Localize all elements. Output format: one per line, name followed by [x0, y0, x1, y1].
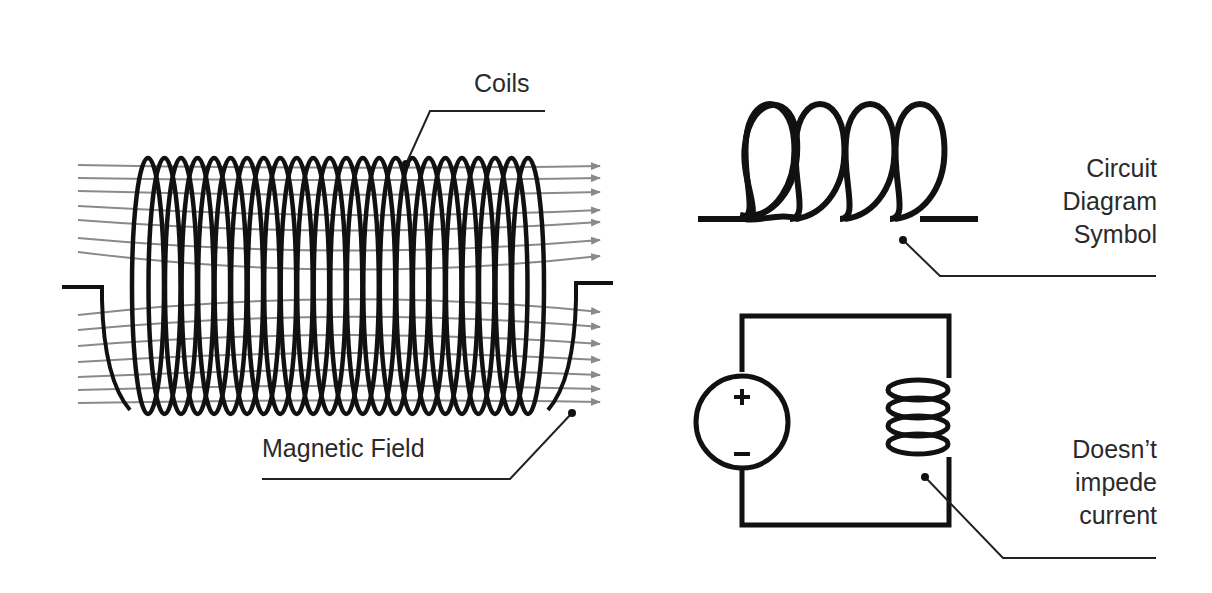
impede-line-3: current [997, 499, 1157, 532]
coils-label: Coils [474, 67, 530, 100]
circuit-symbol-line-1: Circuit [997, 152, 1157, 185]
circuit-inductor [888, 380, 948, 454]
inductor-symbol-loops [740, 104, 978, 219]
circuit-symbol-label: Circuit Diagram Symbol [997, 152, 1157, 251]
circuit-symbol-line-2: Diagram [997, 185, 1157, 218]
circuit-symbol-line-3: Symbol [997, 218, 1157, 251]
circuit-wires [742, 316, 949, 525]
solenoid-coils [132, 158, 544, 414]
magnetic-field-label: Magnetic Field [262, 432, 425, 465]
voltage-source [696, 376, 788, 468]
impede-line-1: Doesn’t [997, 433, 1157, 466]
impede-line-2: impede [997, 466, 1157, 499]
doesnt-impede-label: Doesn’t impede current [997, 433, 1157, 532]
